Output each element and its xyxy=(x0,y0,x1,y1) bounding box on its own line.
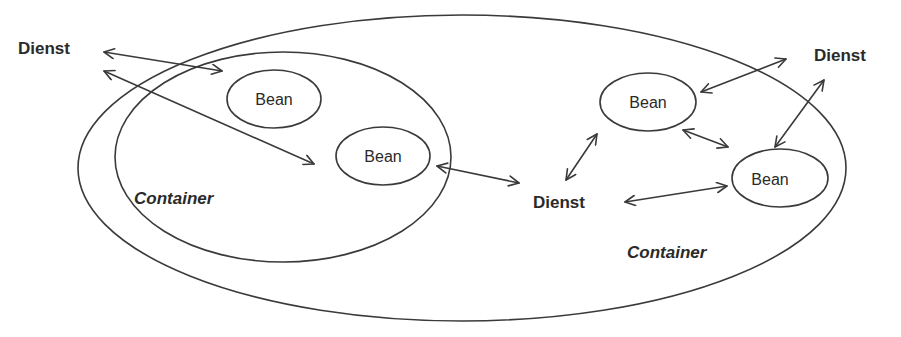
arrow-dienst1-to-bean2 xyxy=(104,71,314,164)
bean-2: Bean xyxy=(336,127,430,185)
arrow-dienst2-to-bean3 xyxy=(566,134,597,180)
service-label-center: Dienst xyxy=(533,193,585,212)
bean-3-label: Bean xyxy=(629,94,666,111)
bean-1-label: Bean xyxy=(255,91,292,108)
service-label-top-left: Dienst xyxy=(18,39,70,58)
container-diagram: Bean Bean Bean Bean Dienst Dienst Dienst… xyxy=(0,0,901,337)
outer-container-label: Container xyxy=(627,243,708,262)
outer-container-shape xyxy=(78,15,846,321)
bean-2-label: Bean xyxy=(364,148,401,165)
bean-4: Bean xyxy=(732,149,828,207)
inner-container-label: Container xyxy=(134,189,215,208)
bean-1: Bean xyxy=(227,70,321,128)
arrow-bean4-to-dienst3 xyxy=(775,80,824,147)
arrow-bean3-to-bean4 xyxy=(683,130,728,147)
bean-3: Bean xyxy=(600,73,696,131)
bean-4-label: Bean xyxy=(751,171,788,188)
service-label-top-right: Dienst xyxy=(814,46,866,65)
arrow-dienst2-to-bean4 xyxy=(625,186,727,202)
